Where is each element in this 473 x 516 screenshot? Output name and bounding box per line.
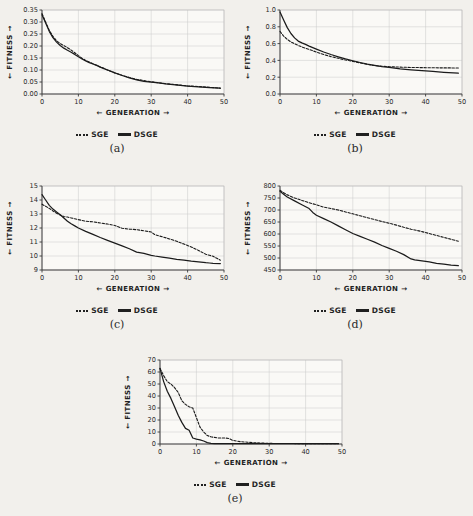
caption-b: (b) [240, 142, 470, 155]
svg-text:← GENERATION →: ← GENERATION → [335, 109, 408, 117]
svg-text:0.00: 0.00 [23, 90, 38, 98]
legend-b: SGE DSGE [240, 130, 470, 139]
dashed-line-icon [314, 310, 326, 312]
dashed-line-icon [194, 484, 206, 486]
svg-text:← GENERATION →: ← GENERATION → [335, 285, 408, 293]
svg-text:20: 20 [349, 274, 357, 282]
svg-text:50: 50 [220, 98, 228, 106]
svg-text:700: 700 [263, 206, 276, 214]
svg-text:30: 30 [265, 448, 273, 456]
dashed-line-icon [314, 134, 326, 136]
chart-svg-b: 010203040500.00.20.40.60.81.0← GENERATIO… [240, 2, 470, 127]
svg-text:30: 30 [147, 98, 155, 106]
svg-text:70: 70 [148, 356, 156, 364]
svg-text:← FITNESS →: ← FITNESS → [6, 201, 14, 255]
svg-text:40: 40 [421, 274, 429, 282]
legend-item-sge-e: SGE [194, 480, 227, 489]
caption-c: (c) [2, 318, 232, 331]
svg-text:650: 650 [263, 218, 276, 226]
dashed-line-icon [76, 134, 88, 136]
dashed-line-icon [76, 310, 88, 312]
legend-label-sge: SGE [91, 130, 109, 139]
svg-text:0.30: 0.30 [23, 18, 38, 26]
svg-text:450: 450 [263, 266, 276, 274]
svg-text:10: 10 [74, 274, 82, 282]
legend-item-dsge-c: DSGE [118, 306, 158, 315]
svg-text:10: 10 [148, 428, 156, 436]
svg-text:40: 40 [421, 98, 429, 106]
legend-item-dsge-b: DSGE [356, 130, 396, 139]
svg-text:0: 0 [40, 98, 44, 106]
svg-text:9: 9 [34, 266, 38, 274]
svg-text:30: 30 [385, 98, 393, 106]
svg-text:13: 13 [30, 210, 38, 218]
figure-container: 010203040500.000.050.100.150.200.250.300… [0, 0, 473, 516]
svg-text:← GENERATION →: ← GENERATION → [97, 109, 170, 117]
svg-text:50: 50 [338, 448, 346, 456]
legend-a: SGE DSGE [2, 130, 232, 139]
legend-label-sge: SGE [329, 306, 347, 315]
svg-text:0.2: 0.2 [266, 74, 277, 82]
svg-text:0.35: 0.35 [23, 6, 38, 14]
svg-text:40: 40 [183, 98, 191, 106]
legend-label-sge: SGE [209, 480, 227, 489]
svg-text:0: 0 [40, 274, 44, 282]
svg-text:20: 20 [111, 274, 119, 282]
chart-panel-e: 01020304050010203040506070← GENERATION →… [120, 352, 350, 477]
caption-e: (e) [120, 492, 350, 505]
svg-text:20: 20 [148, 416, 156, 424]
svg-text:20: 20 [229, 448, 237, 456]
svg-text:50: 50 [458, 98, 466, 106]
legend-label-dsge: DSGE [134, 130, 158, 139]
svg-text:0.0: 0.0 [266, 90, 277, 98]
svg-text:15: 15 [30, 182, 38, 190]
chart-panel-a: 010203040500.000.050.100.150.200.250.300… [2, 2, 232, 127]
svg-text:0.4: 0.4 [266, 57, 277, 65]
svg-text:10: 10 [312, 98, 320, 106]
svg-text:750: 750 [263, 194, 276, 202]
svg-text:0: 0 [278, 98, 282, 106]
svg-text:14: 14 [30, 196, 38, 204]
chart-svg-a: 010203040500.000.050.100.150.200.250.300… [2, 2, 232, 127]
svg-text:0.25: 0.25 [23, 30, 38, 38]
svg-text:60: 60 [148, 368, 156, 376]
svg-text:0: 0 [158, 448, 162, 456]
legend-label-dsge: DSGE [372, 130, 396, 139]
caption-a: (a) [2, 142, 232, 155]
legend-item-sge-b: SGE [314, 130, 347, 139]
svg-text:1.0: 1.0 [266, 6, 277, 14]
legend-item-sge-c: SGE [76, 306, 109, 315]
legend-label-dsge: DSGE [134, 306, 158, 315]
svg-text:10: 10 [74, 98, 82, 106]
svg-text:0.6: 0.6 [266, 40, 277, 48]
svg-text:11: 11 [30, 238, 38, 246]
chart-panel-c: 010203040509101112131415← GENERATION →← … [2, 178, 232, 303]
chart-svg-e: 01020304050010203040506070← GENERATION →… [120, 352, 350, 477]
svg-text:0.20: 0.20 [23, 42, 38, 50]
svg-text:← GENERATION →: ← GENERATION → [97, 285, 170, 293]
svg-text:0.15: 0.15 [23, 54, 38, 62]
svg-text:550: 550 [263, 242, 276, 250]
legend-item-sge-a: SGE [76, 130, 109, 139]
solid-line-icon [356, 133, 369, 136]
svg-text:20: 20 [349, 98, 357, 106]
chart-panel-b: 010203040500.00.20.40.60.81.0← GENERATIO… [240, 2, 470, 127]
svg-text:30: 30 [147, 274, 155, 282]
svg-text:0.05: 0.05 [23, 78, 38, 86]
legend-e: SGE DSGE [120, 480, 350, 489]
svg-text:30: 30 [148, 404, 156, 412]
svg-text:800: 800 [263, 182, 276, 190]
legend-item-dsge-e: DSGE [236, 480, 276, 489]
legend-label-sge: SGE [91, 306, 109, 315]
legend-item-dsge-a: DSGE [118, 130, 158, 139]
legend-label-dsge: DSGE [372, 306, 396, 315]
svg-text:40: 40 [148, 392, 156, 400]
svg-text:10: 10 [312, 274, 320, 282]
svg-text:30: 30 [385, 274, 393, 282]
solid-line-icon [356, 309, 369, 312]
svg-text:10: 10 [192, 448, 200, 456]
svg-text:500: 500 [263, 254, 276, 262]
svg-text:← FITNESS →: ← FITNESS → [124, 375, 132, 429]
svg-text:← FITNESS →: ← FITNESS → [6, 25, 14, 79]
svg-text:40: 40 [301, 448, 309, 456]
